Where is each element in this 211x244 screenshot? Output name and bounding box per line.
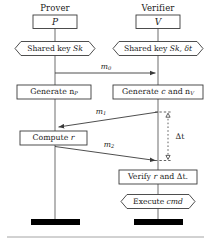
terminator-bar-prover bbox=[31, 219, 80, 225]
terminator-bar-verifier bbox=[134, 219, 183, 225]
sequence-diagram: Prover Verifier P V Shared key Sk Shared… bbox=[0, 0, 211, 244]
triangle-up-icon bbox=[166, 113, 170, 117]
message-arrow-m2 bbox=[55, 147, 156, 161]
triangle-down-icon bbox=[166, 155, 170, 159]
box-verify bbox=[119, 170, 197, 184]
hexagon-shared-key-verifier bbox=[113, 42, 203, 56]
hexagon-shared-key-prover bbox=[15, 42, 95, 56]
box-compute-r bbox=[20, 131, 87, 145]
actor-box-verifier bbox=[136, 15, 180, 29]
message-arrow-m1 bbox=[59, 112, 159, 127]
diagram-canvas bbox=[0, 0, 211, 244]
hexagon-execute-cmd bbox=[121, 195, 195, 209]
box-generate-np bbox=[17, 85, 91, 99]
box-generate-c-nv bbox=[113, 85, 203, 99]
actor-box-prover bbox=[33, 15, 77, 29]
